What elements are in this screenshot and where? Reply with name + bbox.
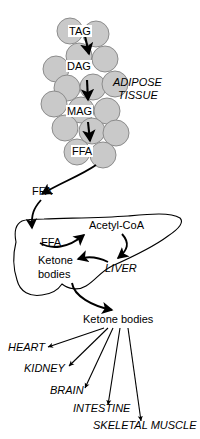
label-intestine: INTESTINE [73, 402, 130, 414]
label-mag: MAG [66, 105, 93, 117]
adipocyte [41, 91, 67, 117]
label-tag: TAG [68, 25, 92, 37]
label-adipose-tissue-line1: ADIPOSE [113, 76, 162, 88]
label-brain: BRAIN [50, 384, 84, 396]
label-ffa-liver: FFA [41, 236, 61, 248]
adipocyte [92, 46, 118, 72]
label-skeletal-muscle: SKELETAL MUSCLE [93, 419, 197, 431]
label-dag: DAG [66, 60, 92, 72]
adipocyte [52, 115, 78, 141]
arrow-ketone-bodies-to-circulation [72, 283, 112, 310]
arrow-to-liver-ketone-bodies [78, 257, 108, 262]
ketone-body-pathway-figure: TAG DAG MAG FFA ADIPOSE TISSUE FFA FFA A… [0, 0, 200, 439]
label-heart: HEART [8, 341, 45, 353]
arrow-to-intestine [108, 328, 120, 405]
label-adipose-tissue-line2: TISSUE [118, 89, 158, 101]
label-liver-ketone-bodies-line1: Ketone [38, 254, 73, 266]
arrow-to-heart [48, 328, 104, 347]
label-liver: LIVER [105, 262, 137, 274]
label-ketone-bodies-circulating: Ketone bodies [83, 313, 153, 325]
label-kidney: KIDNEY [24, 362, 65, 374]
adipocyte [90, 142, 116, 168]
arrow-acetyl-coa-to-ketogenesis [118, 234, 127, 258]
arrow-dag-to-mag [87, 80, 88, 100]
label-ffa-adipose: FFA [71, 145, 93, 157]
label-ffa-circulating: FFA [32, 185, 52, 197]
label-acetyl-coa: Acetyl-CoA [89, 219, 144, 231]
arrow-ffa-into-liver [32, 200, 41, 228]
label-liver-ketone-bodies-line2: bodies [38, 268, 70, 280]
